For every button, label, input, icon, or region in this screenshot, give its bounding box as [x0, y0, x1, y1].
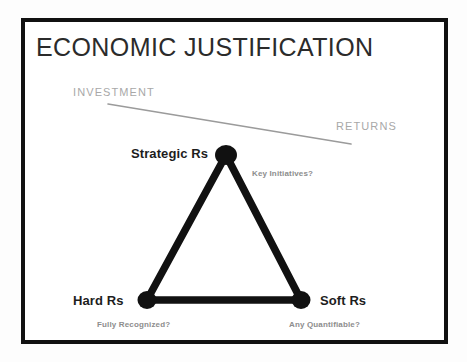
slide-canvas: ECONOMIC JUSTIFICATION INVESTMENT RETURN… [0, 0, 467, 362]
node-caption-soft: Any Quantifiable? [289, 320, 360, 329]
diagram-drawing-layer [0, 0, 467, 362]
node-label-soft: Soft Rs [320, 293, 366, 308]
edge-strategic-hard [147, 155, 226, 300]
node-caption-strategic: Key Initiatives? [252, 169, 313, 178]
node-label-strategic: Strategic Rs [131, 146, 208, 161]
node-soft[interactable] [292, 291, 311, 309]
node-strategic[interactable] [215, 145, 237, 165]
node-caption-hard: Fully Recognized? [97, 320, 170, 329]
investment-returns-trend-line [108, 104, 351, 144]
node-label-hard: Hard Rs [73, 293, 124, 308]
node-hard[interactable] [138, 291, 157, 309]
